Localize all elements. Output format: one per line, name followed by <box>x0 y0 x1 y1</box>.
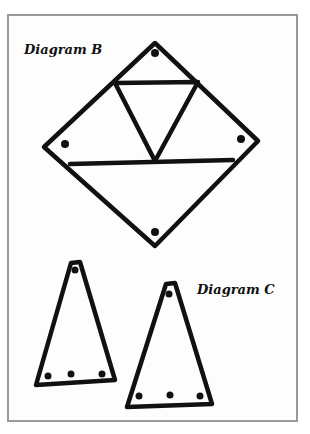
diamond-horizontal-divider <box>70 160 233 164</box>
inner-inverted-triangle <box>115 82 198 161</box>
diagram-b-label: Diagram B <box>24 42 102 57</box>
diagram-c-label: Diagram C <box>197 282 275 297</box>
diagram-canvas <box>0 0 310 434</box>
triangle-c1 <box>36 262 115 385</box>
triangle-c2 <box>127 283 212 407</box>
diamond-outline <box>44 43 258 246</box>
